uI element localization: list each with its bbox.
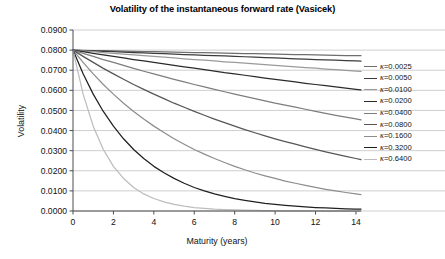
x-tick-label: 2 bbox=[111, 217, 116, 227]
kappa-value: =0.0400 bbox=[384, 108, 412, 117]
legend-item[interactable]: κ=0.1600 bbox=[364, 131, 445, 143]
kappa-value: =0.6400 bbox=[384, 154, 412, 163]
x-axis-title: Maturity (years) bbox=[186, 236, 247, 246]
kappa-value: =0.0050 bbox=[384, 73, 412, 82]
legend-item[interactable]: κ=0.0400 bbox=[364, 107, 445, 119]
kappa-value: =0.1600 bbox=[384, 131, 412, 140]
legend-swatch bbox=[364, 113, 377, 114]
x-axis-ticks-group: 02468101214 bbox=[71, 211, 361, 227]
kappa-value: =0.0025 bbox=[384, 62, 412, 71]
legend-item-label: κ=0.0025 bbox=[380, 63, 412, 71]
y-tick-label: 0.0400 bbox=[41, 126, 68, 136]
kappa-value: =0.0200 bbox=[384, 96, 412, 105]
y-tick-label: 0.0600 bbox=[41, 85, 68, 95]
x-tick-label: 12 bbox=[311, 217, 321, 227]
legend-item-label: κ=0.0200 bbox=[380, 97, 412, 105]
legend-item-label: κ=0.0050 bbox=[380, 74, 412, 82]
x-tick-label: 10 bbox=[270, 217, 280, 227]
kappa-value: =0.0100 bbox=[384, 85, 412, 94]
y-axis-ticks-group: 0.00000.01000.02000.03000.04000.05000.06… bbox=[41, 25, 73, 216]
y-axis-title: Volatility bbox=[16, 104, 26, 137]
legend: κ=0.0025κ=0.0050κ=0.0100κ=0.0200κ=0.0400… bbox=[364, 61, 445, 165]
legend-swatch bbox=[364, 136, 377, 137]
legend-swatch bbox=[364, 124, 377, 125]
legend-swatch bbox=[364, 101, 377, 102]
x-tick-label: 14 bbox=[351, 217, 361, 227]
legend-swatch bbox=[364, 66, 377, 67]
legend-item-label: κ=0.0100 bbox=[380, 86, 412, 94]
legend-item-label: κ=0.1600 bbox=[380, 132, 412, 140]
y-tick-label: 0.0500 bbox=[41, 106, 68, 116]
y-tick-label: 0.0700 bbox=[41, 65, 68, 75]
y-tick-label: 0.0100 bbox=[41, 186, 68, 196]
legend-swatch bbox=[364, 147, 377, 148]
legend-item-label: κ=0.3200 bbox=[380, 144, 412, 152]
legend-item[interactable]: κ=0.0025 bbox=[364, 61, 445, 73]
y-tick-label: 0.0300 bbox=[41, 146, 68, 156]
x-tick-label: 8 bbox=[232, 217, 237, 227]
y-tick-label: 0.0900 bbox=[41, 25, 68, 35]
legend-swatch bbox=[364, 159, 377, 160]
legend-swatch bbox=[364, 78, 377, 79]
legend-item[interactable]: κ=0.0200 bbox=[364, 96, 445, 108]
kappa-value: =0.0800 bbox=[384, 120, 412, 129]
y-tick-label: 0.0200 bbox=[41, 166, 68, 176]
kappa-value: =0.3200 bbox=[384, 143, 412, 152]
y-tick-label: 0.0800 bbox=[41, 45, 68, 55]
legend-item[interactable]: κ=0.0050 bbox=[364, 73, 445, 85]
legend-item[interactable]: κ=0.6400 bbox=[364, 154, 445, 166]
legend-item-label: κ=0.6400 bbox=[380, 155, 412, 163]
x-tick-label: 4 bbox=[151, 217, 156, 227]
x-tick-label: 6 bbox=[192, 217, 197, 227]
curve-0.08 bbox=[73, 50, 361, 159]
legend-item[interactable]: κ=0.0800 bbox=[364, 119, 445, 131]
legend-item-label: κ=0.0800 bbox=[380, 121, 412, 129]
legend-swatch bbox=[364, 89, 377, 90]
curve-0.005 bbox=[73, 50, 361, 61]
legend-item[interactable]: κ=0.3200 bbox=[364, 142, 445, 154]
y-tick-label: 0.0000 bbox=[41, 206, 68, 216]
chart-figure: Volatility of the instantaneous forward … bbox=[0, 0, 445, 259]
curve-0.32 bbox=[73, 50, 361, 209]
x-tick-label: 0 bbox=[71, 217, 76, 227]
legend-item-label: κ=0.0400 bbox=[380, 109, 412, 117]
legend-item[interactable]: κ=0.0100 bbox=[364, 84, 445, 96]
